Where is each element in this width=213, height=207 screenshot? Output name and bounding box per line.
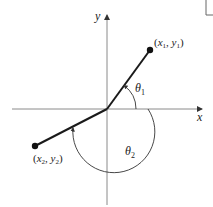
point-1-label: (x1, y1) xyxy=(154,36,184,50)
segment-to-p1 xyxy=(107,50,150,109)
polar-angle-diagram: y x (x1, y1) (x2, y2) θ1 θ2 xyxy=(0,0,213,207)
point-1 xyxy=(147,47,153,53)
theta2-arc xyxy=(73,109,155,173)
frame-corner xyxy=(206,0,213,15)
segment-to-p2 xyxy=(35,109,107,146)
y-axis-label: y xyxy=(94,9,101,23)
theta1-label: θ1 xyxy=(135,81,145,97)
point-2-label: (x2, y2) xyxy=(33,152,63,166)
x-axis-label: x xyxy=(196,110,203,124)
theta2-label: θ2 xyxy=(125,144,135,160)
point-2 xyxy=(32,143,38,149)
